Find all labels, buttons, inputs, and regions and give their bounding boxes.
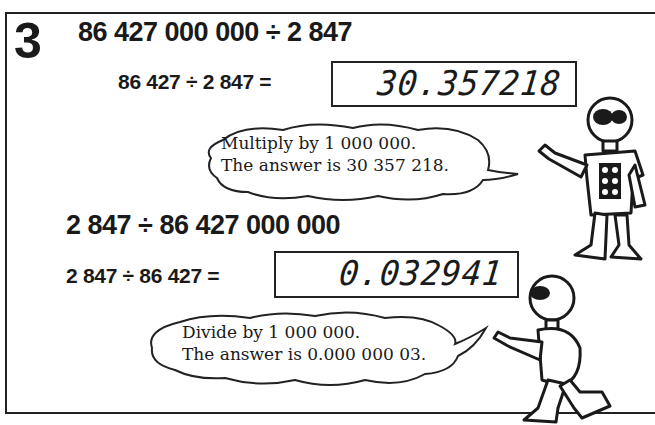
- problem2-display-value: 0.032941: [338, 253, 505, 293]
- problem1-equation: 86 427 ÷ 2 847 =: [118, 70, 271, 94]
- speech-bubble-2: Divide by 1 000 000. The answer is 0.000…: [140, 308, 495, 392]
- problem2-calculator-display: 0.032941: [274, 251, 519, 298]
- speech-line-2: The answer is 0.000 000 03.: [182, 344, 426, 365]
- robot-pointing-icon: [515, 95, 651, 265]
- speech-bubble-1: Multiply by 1 000 000. The answer is 30 …: [203, 118, 523, 206]
- problem2-heading: 2 847 ÷ 86 427 000 000: [66, 210, 340, 241]
- problem1-heading: 86 427 000 000 ÷ 2 847: [78, 17, 352, 48]
- section-number: 3: [14, 16, 42, 66]
- speech-line-1: Multiply by 1 000 000.: [221, 133, 416, 154]
- speech-line-1: Divide by 1 000 000.: [182, 322, 360, 343]
- speech-line-2: The answer is 30 357 218.: [221, 155, 449, 176]
- robot-walking-icon: [490, 268, 620, 425]
- problem2-equation: 2 847 ÷ 86 427 =: [66, 264, 219, 288]
